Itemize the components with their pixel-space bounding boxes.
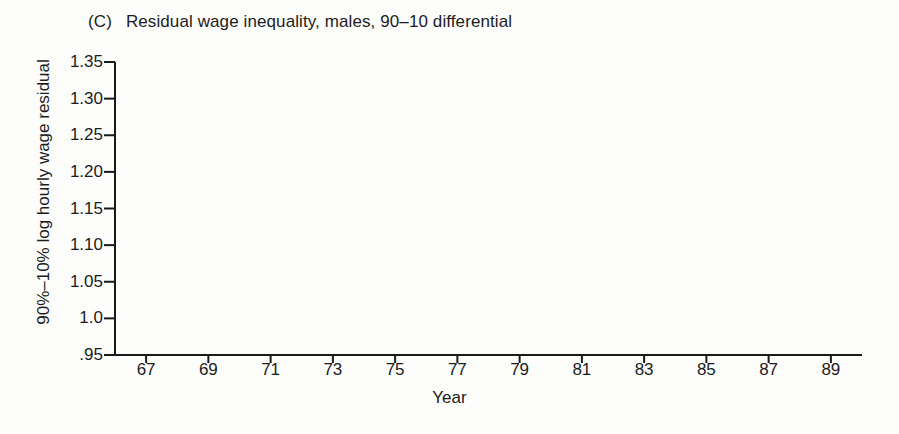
y-tick-label: .95	[41, 345, 103, 365]
y-tick-label: 1.15	[41, 199, 103, 219]
y-tick-label: 1.10	[41, 235, 103, 255]
x-tick-label: 71	[241, 360, 301, 380]
y-tick-label: 1.35	[41, 52, 103, 72]
x-tick-label: 81	[552, 360, 612, 380]
y-tick-label: 1.30	[41, 89, 103, 109]
x-tick-label: 85	[676, 360, 736, 380]
figure-panel-c: (C)Residual wage inequality, males, 90–1…	[0, 0, 899, 434]
x-tick-label: 77	[427, 360, 487, 380]
x-tick-label: 75	[365, 360, 425, 380]
x-tick-label: 79	[490, 360, 550, 380]
y-tick-label: 1.25	[41, 125, 103, 145]
x-tick-label: 83	[614, 360, 674, 380]
x-tick-label: 69	[178, 360, 238, 380]
y-tick-label: 1.0	[41, 308, 103, 328]
x-tick-label: 89	[801, 360, 861, 380]
y-tick-label: 1.05	[41, 272, 103, 292]
x-tick-label: 73	[303, 360, 363, 380]
x-tick-label: 67	[116, 360, 176, 380]
y-tick-label: 1.20	[41, 162, 103, 182]
x-tick-label: 87	[739, 360, 799, 380]
